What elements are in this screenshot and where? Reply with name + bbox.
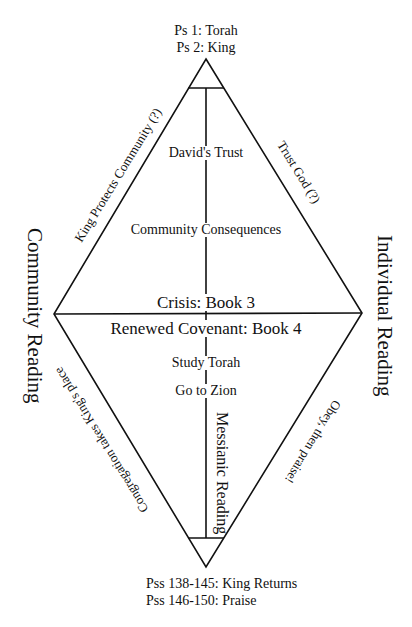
community-reading-label: Community Reading [24,228,45,404]
go-to-zion-label: Go to Zion [173,384,238,398]
study-torah-label: Study Torah [170,356,242,370]
top-label-ps2: Ps 2: King [176,41,235,55]
bottom-label-pss138: Pss 138-145: King Returns [146,577,297,591]
bottom-label-pss146: Pss 146-150: Praise [146,594,256,608]
horizontal-divider [54,313,362,314]
davids-trust-label: David's Trust [167,146,246,160]
individual-reading-label: Individual Reading [374,235,395,397]
diamond-diagram [0,0,412,627]
community-consequences-label: Community Consequences [129,223,284,237]
renewed-covenant-label: Renewed Covenant: Book 4 [108,320,303,337]
crisis-label: Crisis: Book 3 [155,294,257,311]
top-label-ps1: Ps 1: Torah [174,24,237,38]
messianic-reading-label: Messianic Reading [214,412,230,534]
